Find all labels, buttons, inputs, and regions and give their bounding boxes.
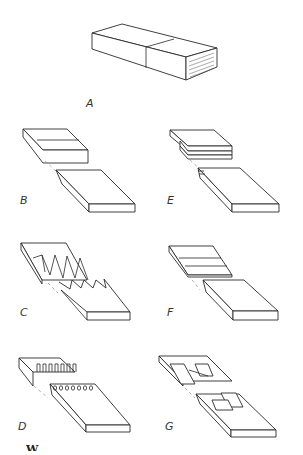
label-b: B: [20, 194, 28, 207]
label-d: D: [18, 420, 26, 433]
label-e: E: [167, 194, 174, 207]
label-g: G: [165, 420, 174, 433]
label-c: C: [20, 306, 28, 319]
caption-fragment: W: [26, 443, 40, 451]
panel-g-hooked-scarf: [159, 356, 276, 437]
panel-b-plain-scarf: [23, 129, 135, 212]
panel-c-serrated-scarf: [21, 243, 130, 320]
panel-e-layered-scarf: [170, 130, 279, 212]
label-f: F: [167, 306, 173, 319]
label-a: A: [86, 97, 94, 110]
panel-a-block: [92, 24, 217, 80]
panel-d-finger-joint: [19, 358, 130, 432]
joint-diagram: [0, 0, 303, 455]
panel-f-stepped-scarf: [169, 246, 278, 320]
